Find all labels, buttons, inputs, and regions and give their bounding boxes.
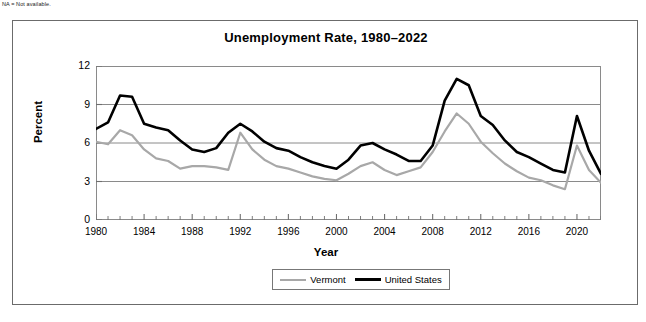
y-tick-label: 0 bbox=[60, 213, 90, 225]
legend-label-vermont: Vermont bbox=[310, 275, 345, 285]
chart-legend: Vermont United States bbox=[272, 269, 450, 290]
chart-figure-container: Unemployment Rate, 1980–2022 Percent 036… bbox=[12, 20, 638, 305]
legend-item-united-states: United States bbox=[355, 275, 442, 285]
legend-label-united-states: United States bbox=[385, 275, 442, 285]
y-tick-label: 3 bbox=[60, 175, 90, 187]
x-tick-label: 1988 bbox=[172, 226, 212, 237]
legend-swatch-vermont-icon bbox=[280, 279, 306, 281]
y-tick-label: 6 bbox=[60, 136, 90, 148]
x-tick-label: 1984 bbox=[124, 226, 164, 237]
series-line-vermont bbox=[96, 113, 601, 189]
series-line-united-states bbox=[96, 79, 601, 174]
chart-plot bbox=[96, 66, 601, 220]
x-tick-label: 1996 bbox=[268, 226, 308, 237]
chart-title: Unemployment Rate, 1980–2022 bbox=[13, 30, 639, 45]
x-tick-label: 1992 bbox=[220, 226, 260, 237]
x-tick-label: 2008 bbox=[413, 226, 453, 237]
gridlines bbox=[96, 105, 601, 182]
x-tick-label: 2004 bbox=[365, 226, 405, 237]
x-tick-label: 2020 bbox=[557, 226, 597, 237]
x-axis-title: Year bbox=[13, 246, 639, 258]
data-series-lines bbox=[96, 79, 601, 189]
x-tick-label: 1980 bbox=[76, 226, 116, 237]
x-tick-label: 2016 bbox=[509, 226, 549, 237]
legend-item-vermont: Vermont bbox=[280, 275, 345, 285]
y-tick-label: 12 bbox=[60, 59, 90, 71]
x-tick-label: 2012 bbox=[461, 226, 501, 237]
na-footnote: NA = Not available. bbox=[2, 1, 51, 7]
y-tick-label: 9 bbox=[60, 98, 90, 110]
y-axis-title: Percent bbox=[32, 92, 44, 152]
legend-swatch-united-states-icon bbox=[355, 278, 381, 281]
x-tick-label: 2000 bbox=[316, 226, 356, 237]
